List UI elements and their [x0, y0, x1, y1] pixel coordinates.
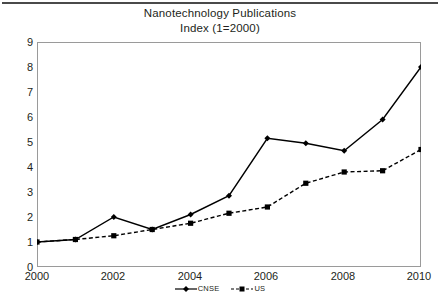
y-tick-label: 4 — [3, 162, 33, 173]
plot-canvas — [37, 42, 421, 267]
chart-figure: Nanotechnology Publications Index (1=200… — [0, 0, 440, 301]
y-tick-label: 6 — [3, 112, 33, 123]
data-point-marker — [226, 211, 231, 216]
y-tick-label: 9 — [3, 37, 33, 48]
data-point-marker — [111, 233, 116, 238]
top-divider — [2, 2, 438, 4]
y-tick-label: 8 — [3, 62, 33, 73]
data-point-marker — [37, 239, 40, 244]
data-point-marker — [150, 227, 155, 232]
legend-swatch-dashed-square-icon — [231, 285, 253, 293]
data-point-marker — [73, 237, 78, 242]
data-point-marker — [342, 169, 347, 174]
y-tick-label: 2 — [3, 212, 33, 223]
x-tick-label: 2006 — [244, 270, 288, 282]
series-layer — [37, 64, 421, 245]
legend-label: US — [254, 284, 265, 293]
data-point-marker — [303, 181, 308, 186]
data-point-marker — [380, 168, 385, 173]
data-point-marker — [188, 221, 193, 226]
chart-legend: CNSE US — [0, 284, 440, 294]
y-tick-label: 5 — [3, 137, 33, 148]
y-tick-label: 7 — [3, 87, 33, 98]
data-point-marker — [111, 214, 117, 220]
chart-title: Nanotechnology Publications — [0, 6, 440, 21]
legend-item-cnse: CNSE — [175, 284, 220, 294]
y-axis: 9 8 7 6 5 4 3 2 1 0 — [0, 0, 33, 301]
x-tick-label: 2000 — [15, 270, 59, 282]
y-tick-label: 3 — [3, 187, 33, 198]
legend-item-us: US — [231, 284, 265, 294]
x-tick-label: 2010 — [397, 270, 440, 282]
title-block: Nanotechnology Publications Index (1=200… — [0, 6, 440, 36]
x-tick-label: 2008 — [321, 270, 365, 282]
series-cnse — [37, 64, 421, 245]
x-tick-label: 2004 — [168, 270, 212, 282]
chart-subtitle: Index (1=2000) — [0, 21, 440, 36]
x-tick-label: 2002 — [91, 270, 135, 282]
y-tick-label: 1 — [3, 237, 33, 248]
data-point-marker — [303, 140, 309, 146]
data-point-marker — [188, 212, 194, 218]
legend-swatch-solid-diamond-icon — [175, 285, 197, 293]
data-point-marker — [265, 204, 270, 209]
data-point-marker — [418, 147, 421, 152]
legend-label: CNSE — [198, 284, 220, 293]
